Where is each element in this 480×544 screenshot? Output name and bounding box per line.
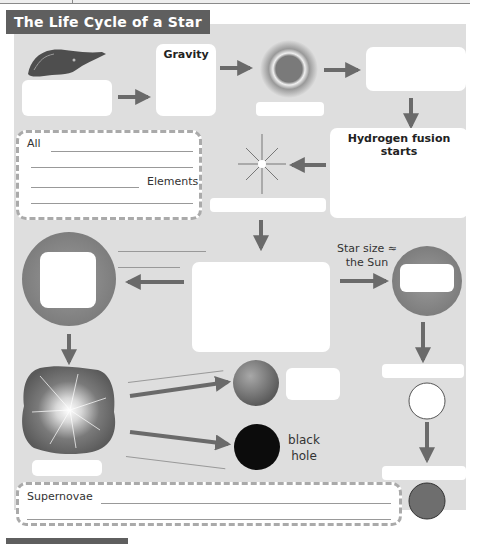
red-giant-icon <box>392 246 462 316</box>
arrow-down-icon <box>64 332 74 366</box>
top-border-divider <box>72 0 73 4</box>
supernovae-start-text: Supernovae <box>27 490 93 503</box>
arrow-right-icon <box>128 376 232 400</box>
black-dwarf-icon <box>408 482 446 520</box>
gravity-box[interactable]: Gravity <box>156 44 216 116</box>
top-border <box>0 0 470 4</box>
black-hole-label: black hole <box>284 432 324 464</box>
top-right-box[interactable] <box>366 47 466 91</box>
arrow-right-icon <box>338 276 390 286</box>
black-dwarf-label-box[interactable] <box>382 466 466 480</box>
white-dwarf-label-box[interactable] <box>382 364 464 378</box>
arrow-right-icon <box>116 92 152 102</box>
arrow-right-icon <box>322 65 362 75</box>
arrow-left-icon <box>124 277 186 287</box>
supernova-label-box[interactable] <box>32 460 102 476</box>
protostar-label-box[interactable] <box>256 102 324 116</box>
hydrogen-heading: Hydrogen fusion starts <box>330 128 468 158</box>
red-supergiant-icon <box>22 232 116 326</box>
elements-start-text: All <box>27 137 41 150</box>
nebula-label-box[interactable] <box>22 80 112 116</box>
black-hole-icon <box>234 424 280 470</box>
supernova-icon <box>20 364 118 456</box>
answer-line <box>118 267 180 268</box>
hydrogen-fusion-box[interactable]: Hydrogen fusion starts <box>330 128 468 218</box>
black-hole-line2: hole <box>284 448 324 464</box>
elements-end-text: Elements <box>147 175 198 188</box>
arrow-left-icon <box>288 160 328 170</box>
gravity-heading: Gravity <box>156 44 216 61</box>
black-hole-line1: black <box>284 432 324 448</box>
neutron-star-icon <box>233 360 279 406</box>
arrow-down-icon <box>406 96 416 130</box>
bottom-section-tab <box>6 538 128 544</box>
nebula-icon <box>24 44 108 78</box>
arrow-down-icon <box>422 420 432 464</box>
arrow-right-icon <box>128 428 232 452</box>
page-title: The Life Cycle of a Star <box>6 10 210 34</box>
protostar-icon <box>260 40 318 98</box>
arrow-right-icon <box>218 63 254 73</box>
red-giant-label-box[interactable] <box>400 264 454 292</box>
main-sequence-box[interactable] <box>192 262 330 352</box>
answer-line <box>118 251 206 252</box>
elements-fill-box[interactable]: All Elements <box>16 130 202 220</box>
arrow-down-icon <box>418 320 428 364</box>
sparkle-star-icon <box>238 134 286 194</box>
arrow-down-icon <box>256 218 266 252</box>
new-star-label-box[interactable] <box>210 198 326 212</box>
white-dwarf-icon <box>408 382 446 420</box>
supergiant-label-box[interactable] <box>40 252 96 308</box>
supernovae-fill-box[interactable]: Supernovae <box>16 482 402 526</box>
neutron-star-label-box[interactable] <box>286 368 340 400</box>
